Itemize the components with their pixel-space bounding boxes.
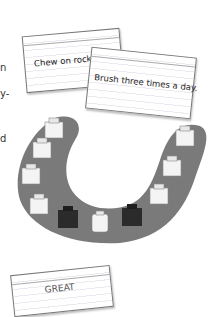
card-great: GREAT bbox=[10, 265, 114, 317]
card-text: GREAT bbox=[44, 282, 75, 295]
